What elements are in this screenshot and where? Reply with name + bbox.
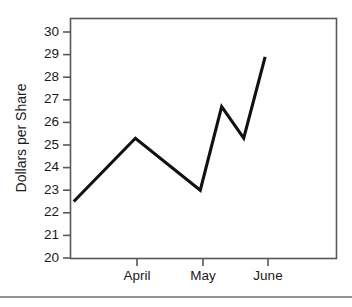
y-tick-label: 26 <box>44 114 59 129</box>
y-tick-label: 25 <box>44 137 59 152</box>
y-tick-label: 22 <box>44 204 59 219</box>
x-axis-tick-labels: April May June <box>123 268 282 283</box>
y-axis-tick-labels: 20 21 22 23 24 25 26 27 28 29 30 <box>44 24 60 265</box>
chart-figure: 20 21 22 23 24 25 26 27 28 29 30 Dollars… <box>0 0 352 307</box>
line-chart: 20 21 22 23 24 25 26 27 28 29 30 Dollars… <box>0 0 352 307</box>
x-axis-ticks <box>137 259 268 267</box>
plot-area-frame <box>71 19 337 259</box>
y-tick-label: 23 <box>44 182 59 197</box>
y-tick-label: 30 <box>44 24 59 39</box>
x-tick-label-june: June <box>253 268 282 283</box>
y-tick-label: 21 <box>44 227 59 242</box>
y-axis-ticks <box>63 32 71 258</box>
x-tick-label-april: April <box>123 268 150 283</box>
y-tick-label: 28 <box>44 69 59 84</box>
y-tick-label: 24 <box>44 159 60 174</box>
y-tick-label: 29 <box>44 46 59 61</box>
y-tick-label: 27 <box>44 91 59 106</box>
y-tick-label: 20 <box>44 250 59 265</box>
y-axis-title: Dollars per Share <box>13 83 29 192</box>
x-tick-label-may: May <box>190 268 216 283</box>
